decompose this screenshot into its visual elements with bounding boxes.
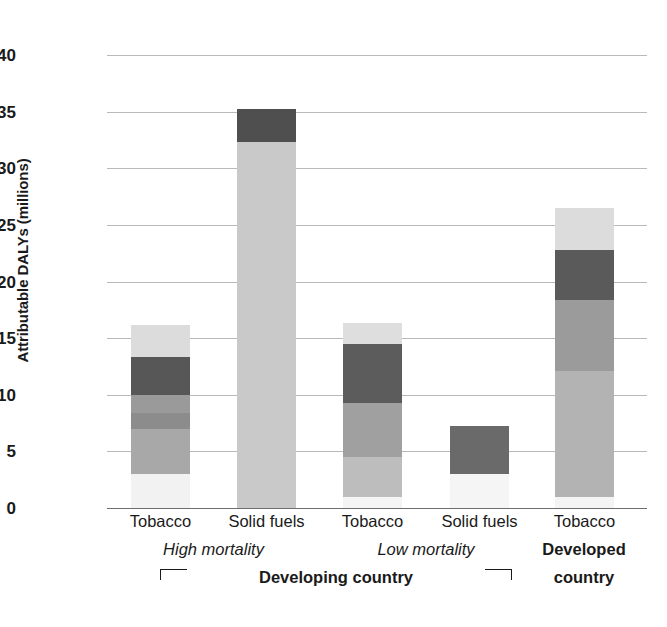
bar-2 <box>237 109 296 508</box>
supergroup-bracket-area: Developing country country <box>0 566 667 600</box>
bar-2-segment-2 <box>237 109 296 142</box>
plot-area <box>107 55 647 508</box>
y-tick-label-30: 30 <box>0 160 16 177</box>
y-tick-label-15: 15 <box>0 330 16 347</box>
bar-5-segment-5 <box>555 208 614 250</box>
y-tick-label-35: 35 <box>0 103 16 120</box>
bar-1-segment-1 <box>131 474 190 508</box>
chart-root: Attributable DALYs (millions) 4035302520… <box>0 0 667 627</box>
x-axis-group-labels: High mortality Low mortality Developed <box>0 540 667 566</box>
category-label-1: Tobacco <box>106 512 215 530</box>
bar-3-segment-5 <box>343 323 402 343</box>
y-axis-title-text: Attributable DALYs (millions) <box>14 158 31 362</box>
bar-4-segment-1 <box>450 474 509 508</box>
supergroup-label: Developing country <box>186 568 486 587</box>
bar-3 <box>343 323 402 508</box>
bar-2-segment-1 <box>237 142 296 508</box>
bar-1-segment-2 <box>131 429 190 474</box>
bar-5-segment-4 <box>555 250 614 300</box>
group-label-developed: Developed <box>524 540 644 559</box>
gridline-0 <box>107 508 647 509</box>
y-tick-label-10: 10 <box>0 386 16 403</box>
bar-4 <box>450 426 509 508</box>
bar-5-segment-2 <box>555 371 614 497</box>
bar-5-segment-3 <box>555 300 614 371</box>
developed-country-second-line: country <box>524 568 644 587</box>
bar-3-segment-3 <box>343 403 402 457</box>
bar-1-segment-4 <box>131 395 190 413</box>
gridline-35 <box>107 112 647 113</box>
bar-4-segment-2 <box>450 426 509 474</box>
bracket-arm-right-icon <box>485 569 512 580</box>
bar-1-segment-5 <box>131 357 190 394</box>
y-tick-label-40: 40 <box>0 47 16 64</box>
y-tick-label-20: 20 <box>0 273 16 290</box>
bar-3-segment-4 <box>343 344 402 403</box>
y-tick-label-5: 5 <box>0 443 16 460</box>
category-label-5: Tobacco <box>530 512 639 530</box>
bar-5-segment-1 <box>555 497 614 508</box>
category-label-4: Solid fuels <box>425 512 534 530</box>
y-tick-label-25: 25 <box>0 216 16 233</box>
category-label-3: Tobacco <box>318 512 427 530</box>
category-label-2: Solid fuels <box>212 512 321 530</box>
bar-1-segment-3 <box>131 413 190 429</box>
bar-1 <box>131 325 190 508</box>
group-label-low-mortality: Low mortality <box>343 540 509 559</box>
gridline-40 <box>107 55 647 56</box>
bar-5 <box>555 208 614 508</box>
gridline-30 <box>107 168 647 169</box>
bar-3-segment-2 <box>343 457 402 497</box>
group-label-high-mortality: High mortality <box>131 540 296 559</box>
bracket-arm-left-icon <box>160 569 187 580</box>
x-axis-category-labels: TobaccoSolid fuelsTobaccoSolid fuelsToba… <box>0 512 667 542</box>
bar-3-segment-1 <box>343 497 402 508</box>
bar-1-segment-6 <box>131 325 190 358</box>
